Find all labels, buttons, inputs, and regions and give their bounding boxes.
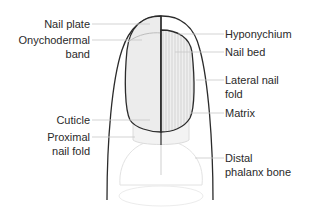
- label-text: Onychodermal: [18, 33, 90, 47]
- label-matrix: Matrix: [225, 106, 255, 120]
- label-text: Nail bed: [225, 46, 265, 58]
- label-text: band: [18, 47, 90, 61]
- nail-bed-right: [161, 30, 194, 132]
- label-text: Cuticle: [56, 114, 90, 126]
- label-text: nail fold: [47, 144, 90, 158]
- label-hyponychium: Hyponychium: [225, 27, 292, 41]
- label-proximal-nail-fold: Proximal nail fold: [47, 130, 90, 158]
- label-text: Distal: [225, 151, 291, 165]
- label-text: phalanx bone: [225, 165, 291, 179]
- label-text: Matrix: [225, 107, 255, 119]
- label-text: fold: [225, 87, 279, 101]
- label-nail-plate: Nail plate: [44, 17, 90, 31]
- label-distal-phalanx-bone: Distal phalanx bone: [225, 151, 291, 179]
- label-text: Lateral nail: [225, 73, 279, 87]
- label-text: Nail plate: [44, 18, 90, 30]
- label-onychodermal-band: Onychodermal band: [18, 33, 90, 61]
- label-cuticle: Cuticle: [56, 113, 90, 127]
- label-text: Proximal: [47, 130, 90, 144]
- label-lateral-nail-fold: Lateral nail fold: [225, 73, 279, 101]
- nail-plate-left: [125, 16, 161, 132]
- label-text: Hyponychium: [225, 28, 292, 40]
- label-nail-bed: Nail bed: [225, 45, 265, 59]
- bone-head: [119, 186, 203, 206]
